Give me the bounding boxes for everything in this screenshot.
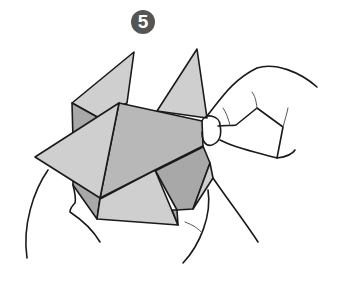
back-right-flap <box>157 49 207 118</box>
right-hand-wrist-line <box>213 178 258 242</box>
left-hand-outline <box>26 170 48 258</box>
right-hand <box>202 66 317 158</box>
origami-illustration <box>0 0 351 283</box>
